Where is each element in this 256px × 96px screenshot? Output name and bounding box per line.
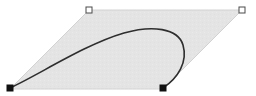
parallelogram-selection-bounds[interactable] bbox=[10, 10, 242, 89]
shape-editor-canvas[interactable] bbox=[0, 0, 256, 96]
selection-handle-top-left[interactable] bbox=[86, 7, 92, 13]
selection-handle-bottom-left[interactable] bbox=[7, 85, 13, 91]
selection-handle-top-right[interactable] bbox=[239, 7, 245, 13]
vector-drawing-surface[interactable] bbox=[0, 0, 256, 96]
selection-handle-bottom-right[interactable] bbox=[160, 85, 166, 91]
